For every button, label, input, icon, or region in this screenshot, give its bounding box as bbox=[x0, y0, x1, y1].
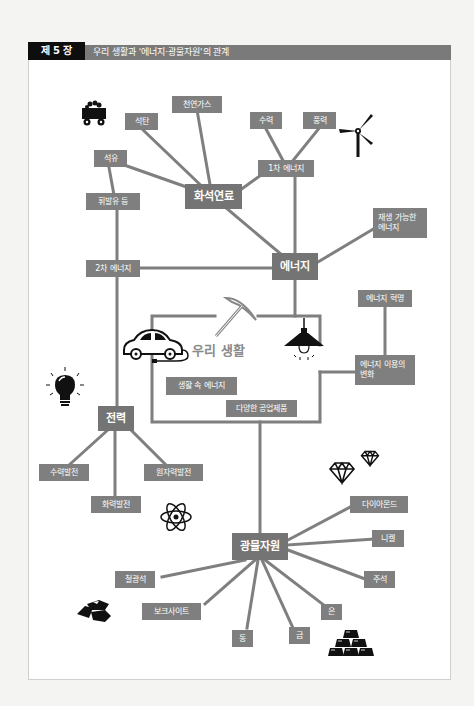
node-wind: 풍력 bbox=[303, 112, 336, 129]
node-renewable-energy: 재생 가능한 에너지 bbox=[373, 208, 427, 238]
node-iron-ore: 철광석 bbox=[115, 571, 155, 588]
pickaxe-icon bbox=[212, 294, 262, 340]
node-copper: 동 bbox=[232, 630, 253, 647]
node-natural-gas: 천연가스 bbox=[172, 96, 222, 113]
node-hydro: 수력 bbox=[250, 112, 282, 129]
node-coal: 석탄 bbox=[125, 113, 158, 130]
node-hydro-power: 수력발전 bbox=[39, 464, 89, 481]
gold-bars-icon bbox=[328, 628, 374, 658]
diamond-icon bbox=[328, 461, 356, 485]
node-nickel: 니켈 bbox=[372, 530, 404, 547]
node-nuclear-power: 원자력발전 bbox=[144, 464, 203, 481]
atom-icon bbox=[159, 499, 193, 535]
node-mineral-resources: 광물자원 bbox=[232, 533, 288, 560]
node-thermal-power: 화력발전 bbox=[91, 496, 141, 513]
node-silver: 은 bbox=[321, 604, 342, 620]
node-energy-in-life: 생활 속 에너지 bbox=[166, 377, 237, 395]
electric-car-icon bbox=[120, 326, 190, 364]
node-bauxite: 보크사이트 bbox=[142, 603, 201, 620]
node-secondary-energy: 2차 에너지 bbox=[86, 260, 140, 277]
node-electricity: 전력 bbox=[98, 406, 134, 431]
node-energy-revolution: 에너지 혁명 bbox=[358, 290, 412, 307]
node-gold: 금 bbox=[289, 627, 310, 644]
node-tin: 주석 bbox=[364, 571, 395, 588]
node-energy-use-change: 에너지 이용의 변화 bbox=[355, 355, 415, 385]
ore-rocks-icon bbox=[75, 598, 115, 624]
node-energy: 에너지 bbox=[272, 253, 318, 280]
node-diamond: 다이아몬드 bbox=[350, 496, 408, 513]
node-industrial-products: 다양한 공업제품 bbox=[226, 400, 297, 417]
coal-cart-icon bbox=[80, 100, 108, 128]
light-bulb-icon bbox=[44, 367, 86, 411]
node-gasoline-etc: 휘발유 등 bbox=[86, 193, 140, 210]
center-label: 우리 생활 bbox=[192, 340, 245, 359]
node-fossil-fuel: 화석연료 bbox=[185, 184, 242, 209]
node-petroleum: 석유 bbox=[94, 150, 127, 167]
pendant-lamp-icon bbox=[282, 318, 326, 362]
node-primary-energy: 1차 에너지 bbox=[258, 160, 314, 177]
wind-turbine-icon bbox=[338, 112, 378, 158]
diamond-icon bbox=[360, 450, 380, 467]
